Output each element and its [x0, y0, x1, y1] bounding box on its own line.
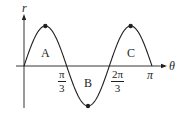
extremum-dot [86, 104, 90, 108]
region-b-label: B [84, 77, 92, 89]
region-a-label: A [41, 47, 50, 59]
tick-label-2pi-over-3: 2π 3 [111, 69, 124, 94]
extremum-dot [43, 24, 47, 28]
tick-label-pi: π [147, 69, 153, 81]
tick-numerator: 2π [111, 69, 124, 82]
extremum-dot [128, 24, 132, 28]
tick-denominator: 3 [115, 82, 121, 94]
x-axis-arrow-icon [161, 64, 167, 68]
polar-graph-plot [0, 0, 189, 114]
tick-label-pi-over-3: π 3 [58, 69, 66, 94]
tick-denominator: 3 [59, 82, 65, 94]
x-axis-label: θ [169, 60, 175, 72]
tick-numerator: π [58, 69, 66, 82]
region-c-label: C [127, 47, 135, 59]
y-axis-label: r [22, 2, 27, 14]
